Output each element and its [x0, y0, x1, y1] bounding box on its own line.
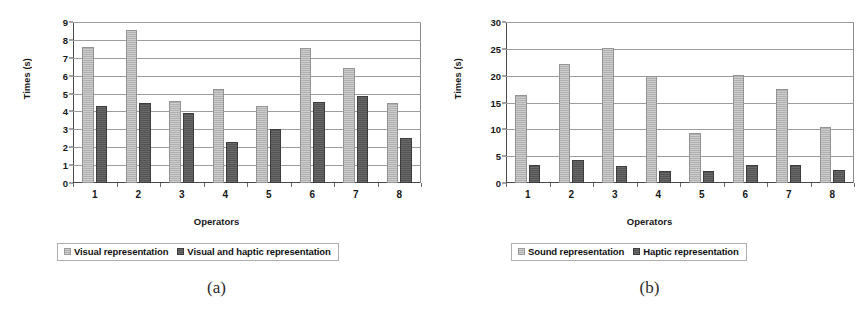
x-tick-mark — [593, 183, 594, 187]
x-tick-mark — [73, 183, 74, 187]
x-tick-label: 4 — [655, 189, 661, 200]
bar — [139, 103, 151, 184]
chart-b: Times (s) 051015202530 12345678 Operator… — [433, 0, 866, 232]
x-tick-label: 6 — [742, 189, 748, 200]
bar — [776, 89, 788, 183]
x-tick-mark — [637, 183, 638, 187]
y-tick-label: 1 — [63, 160, 68, 171]
legend-entry-visual: Visual representation — [64, 246, 168, 257]
y-tick-label: 25 — [490, 43, 501, 54]
legend-entry-haptic: Haptic representation — [633, 246, 739, 257]
x-tick-label: 7 — [786, 189, 792, 200]
x-tick-mark — [291, 183, 292, 187]
bar — [313, 102, 325, 183]
bar — [820, 127, 832, 183]
bar — [82, 47, 94, 183]
y-tick-label: 4 — [63, 106, 68, 117]
legend-a: Visual representation Visual and haptic … — [57, 243, 339, 261]
bar — [833, 170, 845, 183]
y-tick-label: 20 — [490, 70, 501, 81]
bar — [689, 133, 701, 183]
legend-label-visual: Visual representation — [74, 246, 168, 257]
bar — [183, 113, 195, 183]
x-tick-label: 2 — [568, 189, 574, 200]
bar — [559, 64, 571, 183]
x-tick-label: 2 — [135, 189, 141, 200]
chart-a: Times (s) 0123456789 12345678 Operators — [0, 0, 433, 232]
legend-label-sound: Sound representation — [528, 246, 624, 257]
panel-caption-a: (a) — [0, 278, 433, 298]
x-axis-label-a: Operators — [0, 216, 433, 227]
bar — [703, 171, 715, 183]
y-tick-label: 3 — [63, 124, 68, 135]
bar — [572, 160, 584, 183]
bar — [616, 166, 628, 183]
y-tick-label: 8 — [63, 34, 68, 45]
bar — [529, 165, 541, 183]
x-tick-label: 6 — [309, 189, 315, 200]
plot-area-b: 051015202530 12345678 — [506, 22, 854, 183]
y-tick-label: 9 — [63, 17, 68, 28]
bar — [515, 95, 527, 183]
x-tick-label: 3 — [179, 189, 185, 200]
y-tick-label: 5 — [496, 151, 501, 162]
y-tick-label: 7 — [63, 52, 68, 63]
dark-gray-swatch-icon — [633, 248, 640, 255]
x-tick-mark — [378, 183, 379, 187]
y-axis-label-a: Times (s) — [22, 58, 32, 99]
bar — [733, 75, 745, 183]
x-tick-label: 8 — [396, 189, 402, 200]
y-tick-label: 6 — [63, 70, 68, 81]
legend-label-haptic: Haptic representation — [643, 246, 739, 257]
legend-label-visual-haptic: Visual and haptic representation — [187, 246, 330, 257]
bar — [226, 142, 238, 183]
x-tick-label: 1 — [525, 189, 531, 200]
light-gray-swatch-icon — [64, 248, 71, 255]
bar — [357, 96, 369, 183]
x-tick-mark — [854, 183, 855, 187]
y-tick-label: 0 — [63, 178, 68, 189]
x-tick-label: 7 — [353, 189, 359, 200]
x-tick-mark — [334, 183, 335, 187]
x-tick-mark — [117, 183, 118, 187]
y-tick-label: 0 — [496, 178, 501, 189]
bar — [126, 30, 138, 183]
x-tick-label: 1 — [92, 189, 98, 200]
bar — [300, 48, 312, 183]
y-tick-label: 15 — [490, 97, 501, 108]
bar — [602, 48, 614, 183]
figure-row: Times (s) 0123456789 12345678 Operators … — [0, 0, 866, 317]
bar — [746, 165, 758, 183]
x-axis-label-b: Operators — [433, 216, 866, 227]
x-tick-mark — [680, 183, 681, 187]
bar — [659, 171, 671, 183]
bar — [213, 89, 225, 183]
x-tick-label: 4 — [222, 189, 228, 200]
x-tick-label: 5 — [699, 189, 705, 200]
x-tick-label: 5 — [266, 189, 272, 200]
y-tick-label: 5 — [63, 88, 68, 99]
y-tick-label: 10 — [490, 124, 501, 135]
bar — [387, 103, 399, 184]
x-tick-mark — [506, 183, 507, 187]
x-tick-mark — [811, 183, 812, 187]
x-tick-mark — [160, 183, 161, 187]
plot-area-a: 0123456789 12345678 — [73, 22, 421, 183]
legend-entry-visual-haptic: Visual and haptic representation — [177, 246, 330, 257]
chart-panel-b: Times (s) 051015202530 12345678 Operator… — [433, 0, 866, 317]
x-tick-label: 8 — [829, 189, 835, 200]
light-gray-swatch-icon — [518, 248, 525, 255]
bar — [256, 106, 268, 183]
x-tick-mark — [724, 183, 725, 187]
x-tick-mark — [247, 183, 248, 187]
x-tick-mark — [204, 183, 205, 187]
bar — [270, 129, 282, 183]
bar — [646, 76, 658, 183]
y-tick-label: 2 — [63, 142, 68, 153]
legend-entry-sound: Sound representation — [518, 246, 624, 257]
bar — [96, 106, 108, 183]
x-tick-mark — [421, 183, 422, 187]
x-tick-mark — [767, 183, 768, 187]
chart-panel-a: Times (s) 0123456789 12345678 Operators … — [0, 0, 433, 317]
x-tick-mark — [550, 183, 551, 187]
